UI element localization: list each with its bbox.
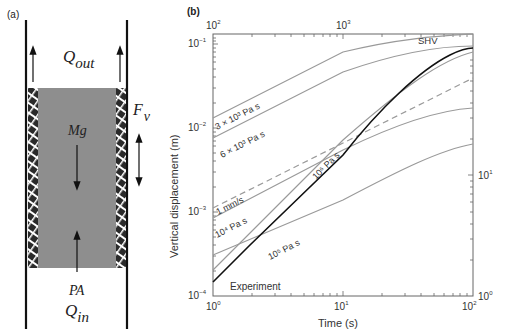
curve-1e5 — [213, 144, 473, 255]
panel-b-label: (b) — [187, 6, 200, 17]
top-tick-1000: 103 — [336, 19, 351, 31]
visc-6e3-label: 6 × 10³ Pa s — [218, 128, 266, 159]
pressure-label: PA — [68, 283, 85, 298]
q-in-label: Qin — [65, 301, 89, 325]
panel-a: (a) Qout Mg Fv — [7, 9, 151, 329]
x-tick-1: 100 — [206, 300, 221, 312]
experiment-curve — [213, 48, 473, 282]
figure: (a) Qout Mg Fv — [0, 0, 508, 336]
x-minor-ticks — [252, 34, 467, 296]
right-hatch — [115, 88, 126, 268]
visc-1e4-label: 10⁴ Pa s — [213, 215, 249, 240]
force-label: Fv — [132, 101, 151, 124]
y-tick-1e-3: 10−3 — [188, 205, 207, 217]
y-tick-1e-4: 10−4 — [188, 289, 207, 301]
x-tick-100: 102 — [462, 300, 477, 312]
weight-label: Mg — [67, 123, 87, 138]
shv-label: SHV — [418, 35, 438, 46]
q-out-label: Qout — [63, 47, 95, 71]
x-axis-title: Time (s) — [318, 317, 358, 329]
right-tick-1: 100 — [478, 290, 493, 302]
visc-1e5-label: 10⁵ Pa s — [266, 237, 302, 262]
experiment-label: Experiment — [230, 281, 281, 292]
left-hatch — [28, 88, 39, 268]
y-axis-title: Vertical displacement (m) — [168, 135, 180, 259]
y-tick-1e-2: 10−2 — [188, 121, 207, 133]
x-tick-10: 101 — [334, 300, 349, 312]
top-tick-100: 102 — [206, 19, 221, 31]
visc-1e6-label: 10⁶ Pa s — [310, 150, 342, 182]
curve-1e6 — [213, 52, 473, 270]
curve-1e4 — [213, 108, 473, 218]
plot-frame — [213, 34, 473, 296]
model-curves — [213, 34, 473, 270]
rate-label: 1 mm/s — [214, 194, 245, 217]
panel-b: (b) — [168, 6, 493, 329]
tick-labels: 100 101 102 10−4 10−3 10−2 10−1 102 103 … — [188, 19, 493, 312]
panel-a-label: (a) — [7, 9, 19, 20]
y-tick-1e-1: 10−1 — [188, 37, 207, 49]
right-tick-10: 101 — [478, 169, 493, 181]
curve-6e3 — [213, 46, 473, 138]
